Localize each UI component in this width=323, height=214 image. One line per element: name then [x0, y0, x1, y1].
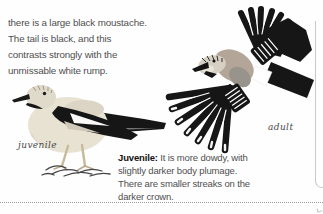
paragraph-line-text: It is more dowdy, with [158, 152, 248, 163]
juvenile-bold-label: Juvenile: [118, 152, 158, 163]
adult-eye [212, 59, 215, 62]
paragraph-line: Juvenile: It is more dowdy, with [118, 151, 250, 164]
flying-adult-bird-illustration [154, 0, 316, 156]
adjacent-panel-edge [315, 21, 323, 188]
dotted-divider [0, 202, 323, 203]
bottom-paragraph: Juvenile: It is more dowdy, with slightl… [118, 151, 250, 203]
juvenile-eye [43, 92, 46, 95]
juvenile-head [12, 85, 56, 109]
paragraph-line: slightly darker body plumage. [118, 164, 250, 177]
top-paragraph: there is a large black moustache. The ta… [8, 15, 147, 79]
field-guide-page: there is a large black moustache. The ta… [0, 0, 323, 214]
print-artifact [317, 207, 323, 212]
adult-figure-label: adult [268, 122, 293, 132]
grass-tufts [42, 166, 110, 176]
paragraph-line: The tail is black, and this [8, 31, 147, 47]
paragraph-line: There are smaller streaks on the [118, 177, 250, 190]
paragraph-line: contrasts strongly with the [8, 47, 147, 63]
juvenile-figure-label: juvenile [18, 140, 57, 150]
paragraph-line: there is a large black moustache. [8, 15, 147, 31]
paragraph-line: unmissable white rump. [8, 63, 147, 79]
